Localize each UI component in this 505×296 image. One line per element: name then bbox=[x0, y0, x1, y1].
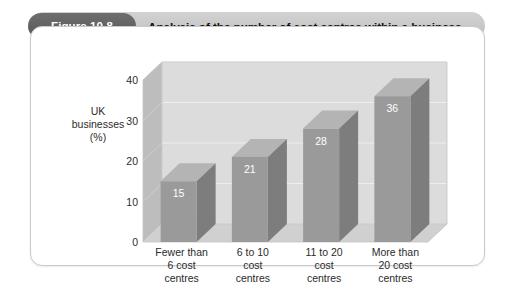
x-category-line: centres bbox=[307, 272, 341, 284]
x-category-line: centres bbox=[164, 272, 198, 284]
figure-card bbox=[30, 26, 485, 266]
x-category-line: centres bbox=[236, 272, 270, 284]
x-category-line: centres bbox=[378, 272, 412, 284]
